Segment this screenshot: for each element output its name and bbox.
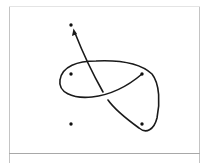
- point-mid-right: [140, 72, 143, 75]
- diagram-frame: [0, 0, 206, 163]
- point-top: [69, 23, 72, 26]
- point-mid-left: [69, 72, 72, 75]
- point-bottom-right: [140, 122, 143, 125]
- point-bottom-left: [69, 122, 72, 125]
- curve-loop: [60, 61, 159, 131]
- knot-diagram: [0, 0, 206, 163]
